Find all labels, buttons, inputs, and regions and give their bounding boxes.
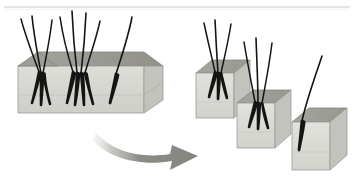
graft-block-3 — [292, 56, 347, 170]
donor-block-side-face — [144, 66, 163, 113]
hair-graft-diagram — [0, 0, 355, 191]
top-rule — [4, 7, 350, 9]
dissection-arrow — [92, 133, 198, 170]
illustration-canvas: Hair follicular unit graft dissection — [0, 0, 355, 191]
donor-block — [18, 11, 163, 113]
donor-block-top-face — [38, 52, 163, 66]
graft-3-front-face — [292, 122, 330, 170]
